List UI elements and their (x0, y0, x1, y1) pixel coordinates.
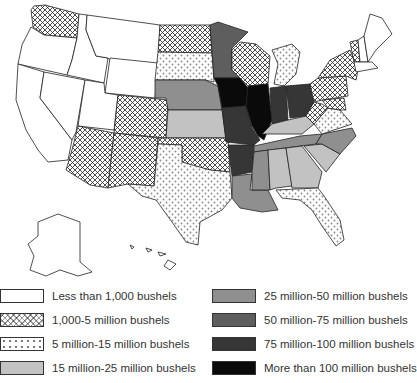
legend: Less than 1,000 bushels 1,000-5 million … (0, 286, 400, 383)
legend-swatch-dark-gray (212, 313, 256, 327)
state-colorado (114, 95, 168, 138)
state-south-dakota (155, 52, 214, 82)
state-indiana (270, 86, 288, 124)
state-arkansas (228, 145, 254, 176)
legend-swatch-very-dark-gray (212, 337, 256, 351)
legend-swatch-crosshatch (0, 313, 44, 327)
legend-swatch-black (212, 361, 256, 375)
legend-item-75m-100m: 75 million-100 million bushels (212, 334, 414, 354)
state-new-york (318, 50, 358, 80)
legend-swatch-white (0, 289, 44, 303)
state-alaska (28, 214, 92, 276)
legend-item-over-100m: More than 100 million bushels (212, 358, 417, 378)
legend-swatch-dots (0, 337, 44, 351)
legend-item-less-than-1000: Less than 1,000 bushels (0, 286, 177, 306)
legend-item-1000-5m: 1,000-5 million bushels (0, 310, 170, 330)
legend-label: 15 million-25 million bushels (52, 362, 196, 374)
legend-item-5m-15m: 5 million-15 million bushels (0, 334, 189, 354)
legend-label: Less than 1,000 bushels (52, 290, 177, 302)
legend-swatch-medium-gray (212, 289, 256, 303)
state-north-dakota (158, 25, 212, 53)
legend-label: 75 million-100 million bushels (264, 338, 414, 350)
us-corn-production-map (0, 0, 400, 280)
state-mississippi (252, 150, 270, 190)
legend-item-25m-50m: 25 million-50 million bushels (212, 286, 408, 306)
legend-item-50m-75m: 50 million-75 million bushels (212, 310, 408, 330)
legend-label: 25 million-50 million bushels (264, 290, 408, 302)
state-florida (276, 188, 344, 246)
state-wyoming (105, 58, 158, 98)
state-hawaii (130, 245, 176, 270)
legend-label: 5 million-15 million bushels (52, 338, 189, 350)
state-kansas (166, 110, 226, 138)
legend-item-15m-25m: 15 million-25 million bushels (0, 358, 196, 378)
legend-swatch-light-gray (0, 361, 44, 375)
state-massachusetts (354, 62, 378, 72)
state-maine (364, 14, 392, 62)
legend-label: More than 100 million bushels (264, 362, 417, 374)
legend-label: 1,000-5 million bushels (52, 314, 170, 326)
state-michigan (272, 44, 300, 86)
legend-label: 50 million-75 million bushels (264, 314, 408, 326)
state-new-mexico (108, 133, 158, 188)
